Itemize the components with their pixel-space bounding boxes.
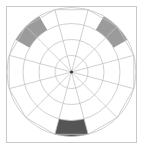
spoke-345deg: [72, 72, 134, 89]
spoke-195deg: [9, 72, 71, 89]
spoke-225deg: [26, 72, 72, 118]
polar-chart-figure: [0, 0, 143, 149]
spoke-15deg: [72, 55, 134, 72]
spoke-165deg: [9, 55, 71, 72]
spoke-75deg: [72, 10, 89, 72]
highlighted-sector-layer: [16, 16, 128, 136]
spoke-135deg: [26, 26, 72, 72]
center-origin-dot: [70, 70, 73, 73]
spoke-315deg: [72, 72, 118, 118]
spoke-105deg: [55, 10, 72, 72]
spoke-45deg: [72, 26, 118, 72]
bottom-sector: [55, 119, 88, 137]
polar-chart-canvas: [0, 0, 143, 149]
